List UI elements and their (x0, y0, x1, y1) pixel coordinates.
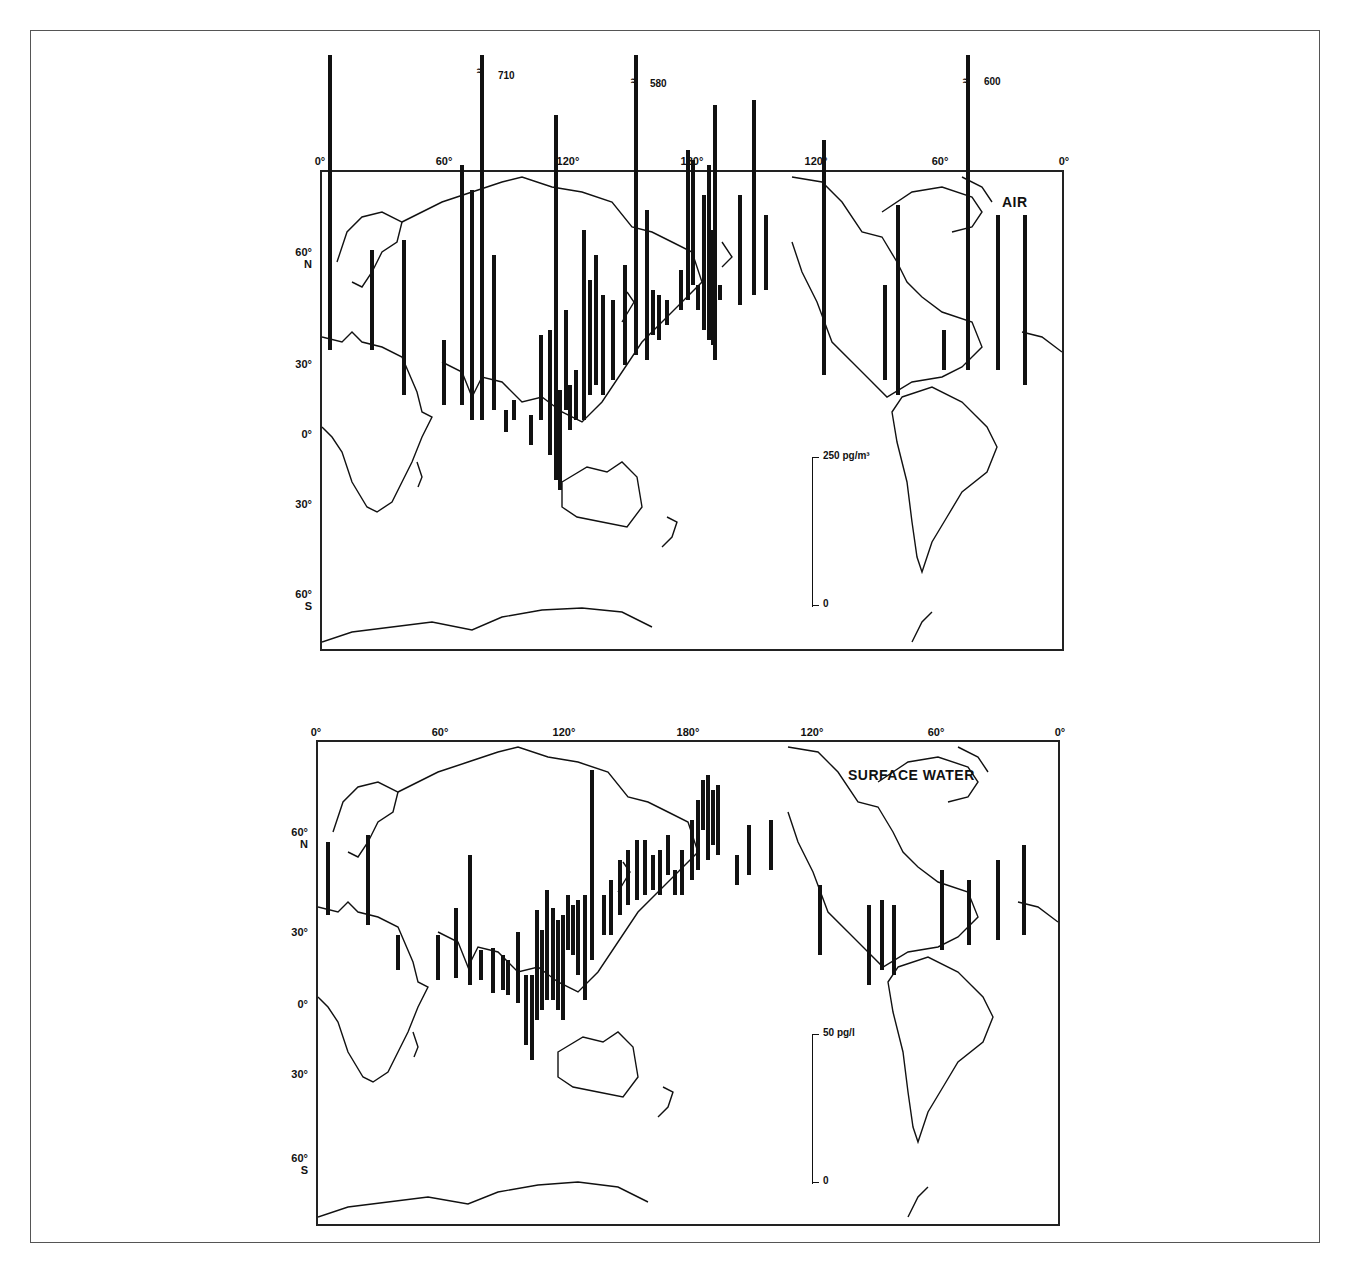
concentration-bar (665, 300, 669, 325)
concentration-bar (896, 205, 900, 395)
offscale-label: 710 (498, 70, 515, 81)
panel-title: AIR (1002, 194, 1028, 210)
concentration-bar (822, 140, 826, 375)
concentration-scale-bar: 250 pg/m³ 0 (812, 457, 813, 607)
concentration-bar (657, 295, 661, 340)
concentration-bar (623, 265, 627, 365)
concentration-bar (752, 100, 756, 295)
concentration-bar (651, 290, 655, 335)
concentration-bar (1023, 215, 1027, 385)
concentration-bar (696, 285, 700, 310)
concentration-bar (645, 210, 649, 360)
concentration-bar (470, 190, 474, 420)
concentration-bar (442, 340, 446, 405)
concentration-bar (996, 215, 1000, 370)
scale-max-label: 250 pg/m³ (823, 450, 870, 461)
concentration-bar (594, 255, 598, 385)
concentration-bar (548, 330, 552, 455)
offscale-label: 580 (650, 78, 667, 89)
concentration-bar (492, 255, 496, 410)
concentration-bar (504, 410, 508, 432)
concentration-bar (601, 295, 605, 395)
offscale-label: 600 (984, 76, 1001, 87)
lat-label: 30° (282, 498, 312, 510)
lon-label: 60° (932, 155, 949, 167)
concentration-bar (480, 55, 484, 420)
concentration-bar (568, 385, 572, 430)
concentration-bar (634, 55, 638, 355)
scale-zero-label: 0 (823, 598, 829, 609)
air-panel: 0° 60° 120° 180° 120° 60° 0° 60°N 30° 0°… (0, 0, 1352, 660)
concentration-bar (529, 415, 533, 445)
concentration-bar (679, 270, 683, 310)
concentration-bar (611, 300, 615, 380)
lat-label: 30° (282, 358, 312, 370)
concentration-bar (713, 105, 717, 360)
lat-label: 0° (282, 428, 312, 440)
concentration-bar (718, 285, 722, 300)
concentration-bar (539, 335, 543, 420)
concentration-bar (558, 390, 562, 490)
concentration-bar (686, 150, 690, 300)
lon-label: 60° (436, 155, 453, 167)
concentration-bar (512, 400, 516, 420)
concentration-bar (702, 195, 706, 330)
concentration-bar (402, 240, 406, 395)
lat-label: 60°N (282, 246, 312, 270)
concentration-bar (588, 280, 592, 395)
lat-label: 60°S (282, 588, 312, 612)
concentration-bar (738, 195, 742, 305)
concentration-bar (370, 250, 374, 350)
concentration-bar (582, 230, 586, 420)
lon-label: 0° (315, 155, 326, 167)
lon-label: 120° (557, 155, 580, 167)
concentration-bar (942, 330, 946, 370)
concentration-bar (883, 285, 887, 380)
concentration-bar (966, 55, 970, 370)
concentration-bar (574, 370, 578, 420)
concentration-bar (460, 165, 464, 405)
lon-label: 0° (1059, 155, 1070, 167)
concentration-bar (691, 160, 695, 285)
concentration-bar (328, 55, 332, 350)
concentration-bar (764, 215, 768, 290)
